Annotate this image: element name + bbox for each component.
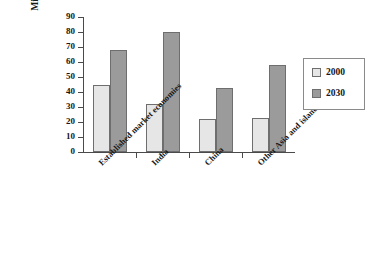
y-axis-tick-label: 80 (66, 25, 75, 38)
legend-item-label: 2030 (326, 88, 345, 99)
y-axis-tick: 60 (78, 62, 83, 63)
legend-item-label: 2000 (326, 67, 345, 78)
legend-swatch-icon (312, 68, 321, 77)
legend-item-2000: 2000 (312, 67, 345, 78)
y-axis-tick: 30 (78, 107, 83, 108)
x-axis-tick (136, 153, 137, 158)
bar-2000-3 (252, 118, 269, 153)
legend-swatch-icon (312, 89, 321, 98)
y-axis-title: Millions with diabetes (30, 0, 44, 34)
plot-area: 0102030405060708090 (83, 17, 295, 153)
y-axis-tick-label: 60 (66, 55, 75, 68)
bar-2030-2 (216, 88, 233, 153)
y-axis-tick-label: 30 (66, 100, 75, 113)
x-axis-tick (189, 153, 190, 158)
y-axis-tick: 0 (78, 152, 83, 153)
bar-2000-0 (93, 85, 110, 153)
bar-chart: Millions with diabetes 01020304050607080… (0, 0, 376, 279)
y-axis-tick-label: 50 (66, 70, 75, 83)
y-axis-tick: 90 (78, 17, 83, 18)
x-axis-tick (242, 153, 243, 158)
y-axis-tick-label: 40 (66, 85, 75, 98)
y-axis-tick: 20 (78, 122, 83, 123)
legend: 2000 2030 (303, 58, 365, 110)
y-axis-title-text: Millions with diabetes (30, 0, 40, 34)
y-axis-tick-label: 20 (66, 115, 75, 128)
y-axis-tick-label: 0 (71, 145, 76, 158)
y-axis-line (83, 17, 84, 153)
y-axis-tick: 50 (78, 77, 83, 78)
legend-item-2030: 2030 (312, 88, 345, 99)
y-axis-tick-label: 90 (66, 10, 75, 23)
bar-2000-2 (199, 119, 216, 152)
y-axis-tick: 40 (78, 92, 83, 93)
y-axis-tick: 70 (78, 47, 83, 48)
y-axis-tick: 10 (78, 137, 83, 138)
y-axis-tick-label: 70 (66, 40, 75, 53)
y-axis-tick-label: 10 (66, 130, 75, 143)
y-axis-tick: 80 (78, 32, 83, 33)
